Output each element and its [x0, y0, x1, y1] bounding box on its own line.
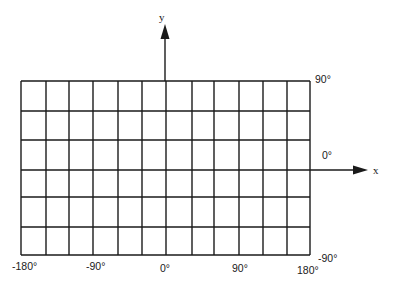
x-axis: x — [310, 164, 379, 176]
longitude-tick-label: -180° — [12, 260, 37, 272]
y-axis: y — [159, 11, 170, 81]
y-axis-label: y — [159, 11, 165, 23]
x-axis-label: x — [373, 164, 379, 176]
coordinate-grid-diagram: y x -180°-90°0°90°180° 90°0°-90° — [0, 0, 394, 289]
grid — [21, 81, 310, 255]
latitude-tick-label: 90° — [315, 73, 331, 85]
latitude-tick-label: -90° — [318, 252, 337, 264]
latitude-tick-label: 0° — [322, 149, 332, 161]
latitude-labels: 90°0°-90° — [315, 73, 337, 264]
longitude-tick-label: 180° — [297, 264, 319, 276]
longitude-tick-label: 0° — [160, 262, 170, 274]
y-axis-arrow-icon — [161, 24, 170, 39]
longitude-tick-label: -90° — [86, 260, 105, 272]
longitude-tick-label: 90° — [232, 262, 248, 274]
x-axis-arrow-icon — [353, 166, 368, 175]
longitude-labels: -180°-90°0°90°180° — [12, 260, 319, 276]
